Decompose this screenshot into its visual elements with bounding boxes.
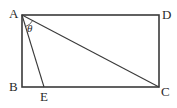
label-a: A <box>9 6 19 21</box>
label-b: B <box>9 79 18 94</box>
diagonal-ac <box>22 15 159 87</box>
label-theta: θ <box>27 22 33 34</box>
geometry-figure: A D B C E θ <box>0 0 177 108</box>
segment-ae <box>22 15 44 87</box>
label-e: E <box>40 89 48 104</box>
label-d: D <box>162 7 171 22</box>
label-c: C <box>161 84 170 99</box>
